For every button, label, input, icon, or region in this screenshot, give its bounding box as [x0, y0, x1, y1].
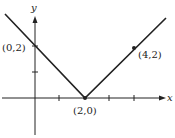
- x-axis-arrow-icon: [159, 96, 166, 101]
- label-4-2: (4,2): [138, 50, 162, 60]
- label-2-0: (2,0): [73, 106, 97, 116]
- y-axis-label: y: [31, 3, 37, 13]
- label-0-2: (0,2): [2, 43, 26, 53]
- graph: [0, 0, 175, 138]
- x-axis-label: x: [167, 93, 173, 103]
- point-2-0: [83, 96, 87, 100]
- point-4-2: [132, 46, 136, 50]
- y-axis-arrow-icon: [33, 16, 38, 23]
